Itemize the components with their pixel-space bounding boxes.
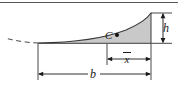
xbar-letter: x [125, 53, 130, 65]
h-arrowhead-bottom [161, 38, 166, 43]
base-dimension-label: b [90, 68, 96, 80]
centroid-dot [115, 33, 119, 37]
b-arrowhead-left [38, 72, 43, 77]
centroid-label: C [105, 30, 112, 41]
height-dimension-label: h [163, 22, 169, 34]
xbar-arrowhead-left [107, 57, 112, 62]
centroid-x-dimension-label: x [123, 52, 131, 65]
dashed-extension-curve [5, 38, 38, 43]
b-arrowhead-right [146, 72, 151, 77]
figure-container: C h b x [0, 0, 178, 96]
spandrel-area-diagram [0, 0, 178, 96]
xbar-arrowhead-right [146, 57, 151, 62]
h-arrowhead-top [161, 13, 166, 18]
